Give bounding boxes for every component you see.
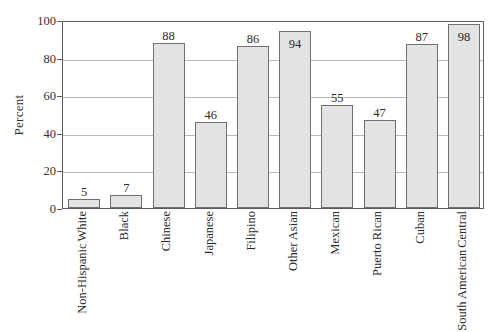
y-axis-tick-labels: 020406080100 — [22, 0, 56, 320]
x-category-label-line: Filipino — [245, 210, 258, 252]
bar — [195, 122, 227, 208]
x-category-label-line: White — [77, 210, 90, 243]
bar-value-label: 47 — [360, 107, 400, 120]
bar — [279, 31, 311, 208]
x-category-label: Mexican — [315, 210, 357, 320]
bar — [110, 195, 142, 208]
y-tick-label: 60 — [22, 90, 56, 103]
x-category-label-text: Black — [119, 210, 132, 241]
bar — [153, 43, 185, 208]
x-category-label-text: WhiteNon-Hispanic — [77, 210, 90, 315]
x-category-label: Chinese — [146, 210, 188, 320]
x-category-label: Filipino — [231, 210, 273, 320]
bar — [68, 199, 100, 208]
x-category-label-line: South American — [456, 249, 469, 332]
x-category-label-text: Puerto Rican — [372, 210, 385, 277]
y-tick-label: 100 — [22, 15, 56, 28]
x-category-label-text: Japanese — [203, 210, 216, 256]
x-category-label-line: Black — [119, 210, 132, 241]
x-axis-category-labels: WhiteNon-HispanicBlackChineseJapaneseFil… — [62, 210, 484, 320]
bar-value-label: 88 — [149, 30, 189, 43]
x-category-label-text: Filipino — [245, 210, 258, 252]
y-tick-label: 20 — [22, 165, 56, 178]
bar-value-label: 94 — [275, 38, 315, 51]
x-category-label-text: Chinese — [161, 210, 174, 252]
x-category-label: Black — [104, 210, 146, 320]
x-category-label: CentralSouth American — [442, 210, 484, 320]
bar-value-label: 46 — [191, 109, 231, 122]
x-category-label-line: Non-Hispanic — [77, 243, 90, 315]
x-category-label-text: Cuban — [414, 210, 427, 245]
x-category-label-text: CentralSouth American — [456, 210, 469, 332]
bar-value-label: 87 — [402, 31, 442, 44]
x-category-label: Other Asian — [273, 210, 315, 320]
x-category-label-line: Japanese — [203, 210, 216, 256]
bar — [237, 46, 269, 208]
x-category-label-line: Other Asian — [288, 210, 301, 272]
x-category-label: Cuban — [400, 210, 442, 320]
x-category-label-text: Other Asian — [288, 210, 301, 272]
bar-value-label: 5 — [64, 186, 104, 199]
x-category-label: Japanese — [189, 210, 231, 320]
plot-area: 578846869455478798 — [62, 21, 484, 209]
bar-value-label: 98 — [444, 31, 484, 44]
x-category-label-text: Mexican — [330, 210, 343, 256]
bar-value-label: 55 — [317, 92, 357, 105]
y-tick-label: 0 — [22, 203, 56, 216]
x-category-label: Puerto Rican — [357, 210, 399, 320]
y-tick-label: 80 — [22, 53, 56, 66]
x-category-label-line: Puerto Rican — [372, 210, 385, 277]
bar — [448, 24, 480, 208]
bar — [364, 120, 396, 208]
y-tick-label: 40 — [22, 128, 56, 141]
x-category-label-line: Central — [456, 210, 469, 249]
bar — [406, 44, 438, 208]
bar — [321, 105, 353, 208]
bar-value-label: 7 — [106, 182, 146, 195]
x-category-label-line: Mexican — [330, 210, 343, 256]
bar-value-label: 86 — [233, 33, 273, 46]
x-category-label-line: Cuban — [414, 210, 427, 245]
x-category-label: WhiteNon-Hispanic — [62, 210, 104, 320]
x-category-label-line: Chinese — [161, 210, 174, 252]
